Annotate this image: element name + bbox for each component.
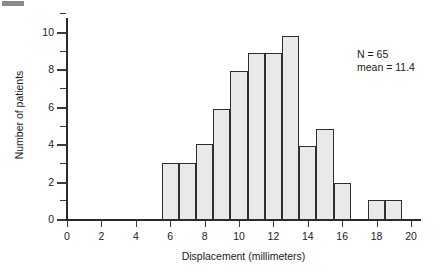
histogram-bar [385, 200, 402, 220]
histogram-bar [265, 53, 282, 220]
annotation-n: N = 65 [357, 48, 415, 61]
histogram-bar [196, 144, 213, 220]
y-axis-title: Number of patients [13, 40, 25, 190]
stats-annotation: N = 65 mean = 11.4 [357, 48, 415, 74]
histogram-bar [282, 36, 299, 220]
histogram-bars [0, 0, 444, 273]
histogram-bar [299, 146, 316, 220]
annotation-mean: mean = 11.4 [357, 61, 415, 74]
histogram-bar [316, 129, 333, 220]
histogram-bar [213, 109, 230, 220]
x-axis-title: Displacement (millimeters) [66, 250, 421, 262]
histogram-bar [368, 200, 385, 220]
histogram-bar [179, 163, 196, 220]
histogram-bar [334, 183, 351, 220]
histogram-figure: 0246810 02468101214161820 Displacement (… [0, 0, 444, 273]
histogram-bar [230, 71, 247, 220]
histogram-bar [162, 163, 179, 220]
histogram-bar [248, 53, 265, 220]
